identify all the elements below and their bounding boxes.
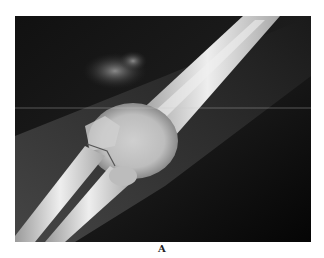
- figure-caption: A: [0, 243, 324, 254]
- xray-image: [15, 16, 311, 242]
- elbow-radiograph: [15, 16, 311, 242]
